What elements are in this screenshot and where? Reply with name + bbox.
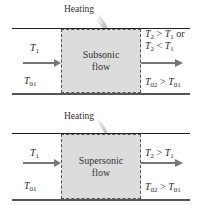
subsonic-panel: Heating Subsonicflow T1 T01 T2 > T1 or T… [0,0,200,100]
supersonic-panel: Heating Supersonicflow T1 T01 T2 > T1 T0… [0,105,200,205]
outlet-stagnation-condition: T02 > T01 [145,76,181,91]
outlet-stagnation-condition: T02 > T01 [145,181,181,196]
